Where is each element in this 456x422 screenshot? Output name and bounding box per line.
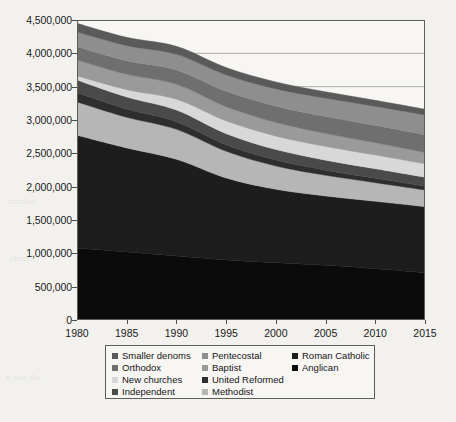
legend-label: New churches <box>122 375 182 385</box>
legend-swatch-icon <box>112 389 118 395</box>
y-axis-label: 4,500,000 <box>2 15 72 25</box>
x-axis-label: 2010 <box>353 327 397 339</box>
legend-swatch-icon <box>112 377 118 383</box>
legend-swatch-icon <box>202 365 208 371</box>
y-axis-label: 4,000,000 <box>2 48 72 58</box>
chart-legend: Smaller denomsOrthodoxNew churchesIndepe… <box>105 345 375 399</box>
x-axis-label: 1990 <box>154 327 198 339</box>
y-axis-label: 3,500,000 <box>2 82 72 92</box>
y-axis: 0500,0001,000,0001,500,0002,000,0002,500… <box>0 0 72 340</box>
legend-label: Anglican <box>302 363 338 373</box>
legend-item: Anglican <box>292 362 338 373</box>
x-axis-label: 1980 <box>55 327 99 339</box>
page-bleed-through: it was the <box>6 372 41 382</box>
x-axis-label: 1985 <box>105 327 149 339</box>
legend-label: Baptist <box>212 363 241 373</box>
x-axis-tick <box>276 320 277 324</box>
legend-item: Independent <box>112 386 175 397</box>
legend-item: Roman Catholic <box>292 350 370 361</box>
x-axis-tick <box>326 320 327 324</box>
legend-item: United Reformed <box>202 374 284 385</box>
legend-swatch-icon <box>202 389 208 395</box>
legend-swatch-icon <box>292 365 298 371</box>
x-axis-tick <box>176 320 177 324</box>
legend-label: Independent <box>122 387 175 397</box>
legend-swatch-icon <box>202 377 208 383</box>
legend-label: Pentecostal <box>212 351 262 361</box>
figure-page: number church it was the over 0500,0001,… <box>0 0 456 422</box>
legend-swatch-icon <box>112 353 118 359</box>
y-axis-label: 2,000,000 <box>2 182 72 192</box>
y-axis-tick <box>72 320 77 321</box>
legend-label: United Reformed <box>212 375 284 385</box>
x-axis-label: 1995 <box>204 327 248 339</box>
plot-area <box>77 20 425 320</box>
x-axis-tick <box>375 320 376 324</box>
legend-item: Baptist <box>202 362 241 373</box>
legend-swatch-icon <box>292 353 298 359</box>
legend-swatch-icon <box>112 365 118 371</box>
legend-item: Orthodox <box>112 362 161 373</box>
x-axis-tick <box>226 320 227 324</box>
y-axis-label: 500,000 <box>2 282 72 292</box>
legend-label: Roman Catholic <box>302 351 370 361</box>
x-axis-label: 2005 <box>304 327 348 339</box>
stacked-area-svg <box>77 20 425 320</box>
legend-label: Methodist <box>212 387 253 397</box>
figure-caption <box>26 413 430 422</box>
stacked-area-figure: number church it was the over 0500,0001,… <box>0 0 456 422</box>
y-axis-label: 3,000,000 <box>2 115 72 125</box>
x-axis-tick <box>425 320 426 324</box>
legend-label: Smaller denoms <box>122 351 191 361</box>
legend-item: Pentecostal <box>202 350 262 361</box>
x-axis: 19801985199019952000200520102015 <box>0 324 456 342</box>
legend-label: Orthodox <box>122 363 161 373</box>
x-axis-label: 2000 <box>254 327 298 339</box>
y-axis-label: 2,500,000 <box>2 148 72 158</box>
legend-item: New churches <box>112 374 182 385</box>
legend-item: Smaller denoms <box>112 350 191 361</box>
y-axis-label: 1,000,000 <box>2 248 72 258</box>
legend-swatch-icon <box>202 353 208 359</box>
legend-item: Methodist <box>202 386 253 397</box>
x-axis-tick <box>127 320 128 324</box>
y-axis-label: 1,500,000 <box>2 215 72 225</box>
x-axis-label: 2015 <box>403 327 447 339</box>
